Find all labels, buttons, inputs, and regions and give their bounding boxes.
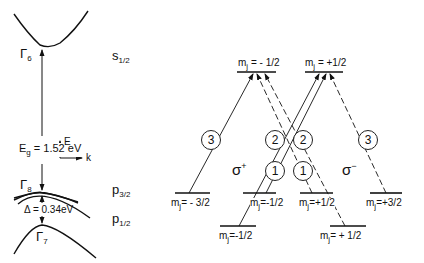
sigma-minus-label: σ−	[342, 162, 357, 177]
strength-circle-sigma-plus-3: 3	[201, 130, 221, 150]
p12-mj-minus-half-label: mj=-1/2	[219, 231, 252, 244]
s-half-label: s1/2	[112, 49, 130, 65]
p32-mj-plus-half-label: mj=+1/2	[299, 198, 335, 211]
split-off-energy-label: Δ = 0.34eV	[24, 205, 73, 215]
p-half-label: p1/2	[112, 212, 130, 228]
sigma-plus-label: σ+	[232, 162, 247, 177]
momentum-axis-label: k	[86, 153, 91, 163]
strength-circle-sigma-minus-1: 1	[293, 161, 313, 181]
strength-circle-sigma-minus-3: 3	[358, 130, 378, 150]
p32-mj-minus-3half-label: mj= - 3/2	[171, 198, 210, 211]
p12-mj-plus-half-label: mj= + 1/2	[320, 231, 361, 244]
upper-mj-plus-half-label: mj = +1/2	[305, 58, 346, 71]
transition-sigma-minus-3	[330, 74, 386, 193]
energy-axis-label: E	[64, 137, 71, 147]
strength-circle-sigma-plus-2: 2	[265, 130, 285, 150]
p-3half-label: p3/2	[112, 183, 130, 199]
gamma8-label: Γ8	[20, 178, 32, 194]
strength-circle-sigma-plus-1: 1	[265, 161, 285, 181]
band-gap-label: Eg = 1.52 eV	[18, 143, 82, 157]
gamma7-label: Γ7	[36, 230, 48, 246]
p32-mj-minus-half-label: mj=-1/2	[250, 198, 283, 211]
upper-mj-minus-half-label: mj = - 1/2	[238, 58, 280, 71]
heavy-hole-band-curve-2	[14, 193, 78, 203]
conduction-band-curve	[14, 11, 88, 47]
split-off-band-curve	[14, 225, 96, 258]
strength-circle-sigma-minus-2: 2	[293, 130, 313, 150]
gamma6-label: Γ6	[20, 47, 32, 63]
p32-mj-plus-3half-label: mj=+3/2	[366, 198, 402, 211]
